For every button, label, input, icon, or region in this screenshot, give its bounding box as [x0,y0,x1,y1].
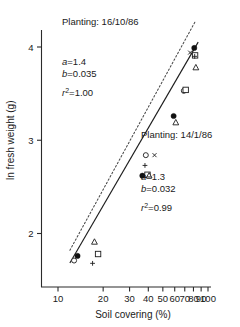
point-cross [153,153,157,157]
point-plus [143,163,148,168]
x-tick-label: 60 [169,293,180,304]
x-tick-label: 50 [158,293,169,304]
point-filled-circle [171,113,176,118]
point-plus [90,261,95,266]
x-tick-label: 30 [124,293,135,304]
axes-group: 102030405060708090100234 [28,30,216,304]
x-tick-label: 100 [200,293,216,304]
point-filled-circle [192,45,197,50]
regression-lines-group [70,22,198,263]
annotation-planting-2-a: a=1.3 [141,171,165,182]
point-open-square [95,251,100,256]
x-tick-label: 20 [98,293,109,304]
point-open-circle [72,258,77,263]
scatter-plot: 102030405060708090100234 Soil covering (… [0,0,240,327]
chart-container: 102030405060708090100234 Soil covering (… [0,0,240,327]
annotation-planting-2-r2: r2=0.99 [141,202,172,213]
y-tick-label: 4 [28,42,33,53]
y-axis-title: ln fresh weight (g) [5,101,16,180]
annotation-planting-2-label: Planting: 14/1/86 [141,129,212,140]
point-open-triangle [193,64,199,69]
annotation-planting-1-b: b=0.035 [62,68,97,79]
y-tick-label: 2 [28,228,33,239]
point-open-triangle [173,119,179,124]
annotation-planting-1-r2: r2=1.00 [62,87,93,98]
point-open-circle [143,153,148,158]
annotation-planting-2-b: b=0.032 [141,183,176,194]
point-open-square [183,87,188,92]
y-tick-label: 3 [28,135,33,146]
chart-text-group: Soil covering (%)ln fresh weight (g)Plan… [5,16,212,320]
x-axis-title: Soil covering (%) [95,309,171,320]
point-filled-circle [75,253,80,258]
x-tick-label: 40 [143,293,154,304]
point-open-triangle [92,239,98,244]
annotation-planting-1-a: a=1.4 [62,56,86,67]
annotation-planting-1-label: Planting: 16/10/86 [62,16,139,27]
x-tick-label: 10 [53,293,64,304]
